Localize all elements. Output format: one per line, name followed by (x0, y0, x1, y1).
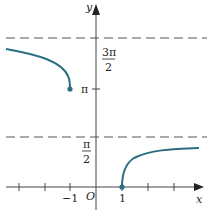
origin-label: O (86, 190, 95, 203)
y-axis-label: y (85, 1, 93, 14)
y-label-half-pi-num: π (83, 138, 90, 151)
y-tick-label-pi: π (81, 83, 88, 96)
curve-right-branch (122, 148, 199, 187)
endpoint-one-zero (119, 184, 124, 189)
x-tick-label-neg-one: −1 (62, 192, 78, 205)
x-axis-arrow-icon (194, 183, 204, 191)
y-label-three-half-pi-num: 3π (102, 46, 116, 59)
y-label-half-pi-den: 2 (83, 153, 90, 166)
endpoint-neg-one-pi (67, 86, 72, 91)
x-axis-label: x (196, 193, 203, 206)
x-tick-label-one: 1 (119, 192, 126, 205)
curve-left-branch (6, 49, 70, 89)
y-axis-arrow-icon (92, 4, 100, 15)
y-label-three-half-pi-den: 2 (105, 61, 112, 74)
arcsec-graph: y x O −1 1 π 3π 2 π 2 (0, 0, 207, 215)
